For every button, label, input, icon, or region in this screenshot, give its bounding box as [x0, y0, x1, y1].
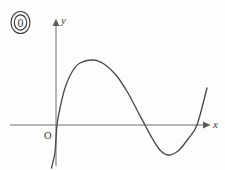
arrow-up-icon	[53, 19, 60, 26]
y-axis-label: y	[60, 14, 66, 26]
figure-container: y x O 0	[0, 0, 225, 170]
arrow-right-icon	[203, 121, 211, 128]
cubic-curve-figure: y x O 0	[0, 0, 225, 170]
x-axis-label: x	[212, 118, 218, 130]
origin-label: O	[44, 130, 52, 141]
figure-tag-label: 0	[18, 16, 24, 30]
curve-path	[52, 60, 208, 168]
